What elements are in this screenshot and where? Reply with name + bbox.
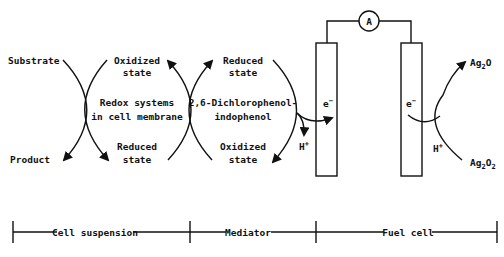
mediator-reduced-to-oxidized-arrow	[273, 60, 297, 162]
diagram-canvas: Substrate Product Oxidized state Redox s…	[0, 0, 504, 257]
substrate-to-product-arrow	[63, 60, 87, 160]
redox-label-1: Redox systems	[100, 97, 174, 108]
product-label: Product	[10, 154, 50, 165]
cell-oxidized-label-1: Oxidized	[114, 55, 160, 66]
circuit-wire-left	[327, 21, 359, 43]
mediator-reduced-label-2: state	[229, 67, 258, 78]
ammeter-label: A	[366, 16, 372, 27]
circuit-wire-right	[379, 21, 411, 43]
redox-label-2: in cell membrane	[91, 111, 183, 122]
mediator-reduced-label-1: Reduced	[223, 55, 263, 66]
mediator-name-2: indophenol	[214, 111, 271, 122]
anode-electron-label: e−	[323, 97, 333, 109]
segment-cell-suspension: Cell suspension	[52, 227, 138, 238]
mediator-oxidized-label-1: Oxidized	[220, 141, 266, 152]
mediator-oxidized-to-reduced-arrow	[189, 61, 212, 160]
cell-oxidized-label-2: state	[123, 67, 152, 78]
ag2o2-label: Ag2O2	[470, 157, 496, 171]
substrate-label: Substrate	[8, 55, 60, 66]
cathode-electrode	[401, 43, 422, 176]
cathode-electron-label: e−	[406, 97, 416, 109]
scale-bar: Cell suspension Mediator Fuel cell	[13, 221, 497, 243]
segment-fuel-cell: Fuel cell	[382, 227, 434, 238]
mediator-proton-label: H+	[299, 140, 309, 152]
ag2o-label: Ag2O	[470, 57, 492, 71]
cathode-proton-label: H+	[433, 142, 443, 154]
cell-reduced-label-2: state	[123, 154, 152, 165]
anode-electrode	[316, 43, 337, 176]
mediator-name-1: 2,6-Dichlorophenol-	[189, 97, 298, 108]
mediator-oxidized-label-2: state	[229, 154, 258, 165]
segment-mediator: Mediator	[225, 227, 271, 238]
cell-reduced-label-1: Reduced	[117, 141, 157, 152]
oxidized-to-reduced-arrow	[85, 60, 108, 160]
